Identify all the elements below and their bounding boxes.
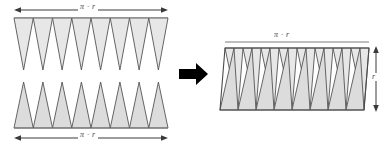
top-row-triangles <box>14 18 168 70</box>
right-height-label: r <box>370 73 378 81</box>
bottom-left-dimension-label: π · r <box>78 131 98 139</box>
right-width-label: π · r <box>272 31 292 39</box>
parallelogram-assembly-shape <box>220 48 369 110</box>
top-left-dimension-label: π · r <box>78 3 98 11</box>
geometry-figure: π · r π · r π · r r <box>0 0 390 151</box>
bottom-row-triangles <box>14 82 168 128</box>
figure-canvas <box>0 0 390 151</box>
transform-arrow-icon <box>179 63 208 85</box>
